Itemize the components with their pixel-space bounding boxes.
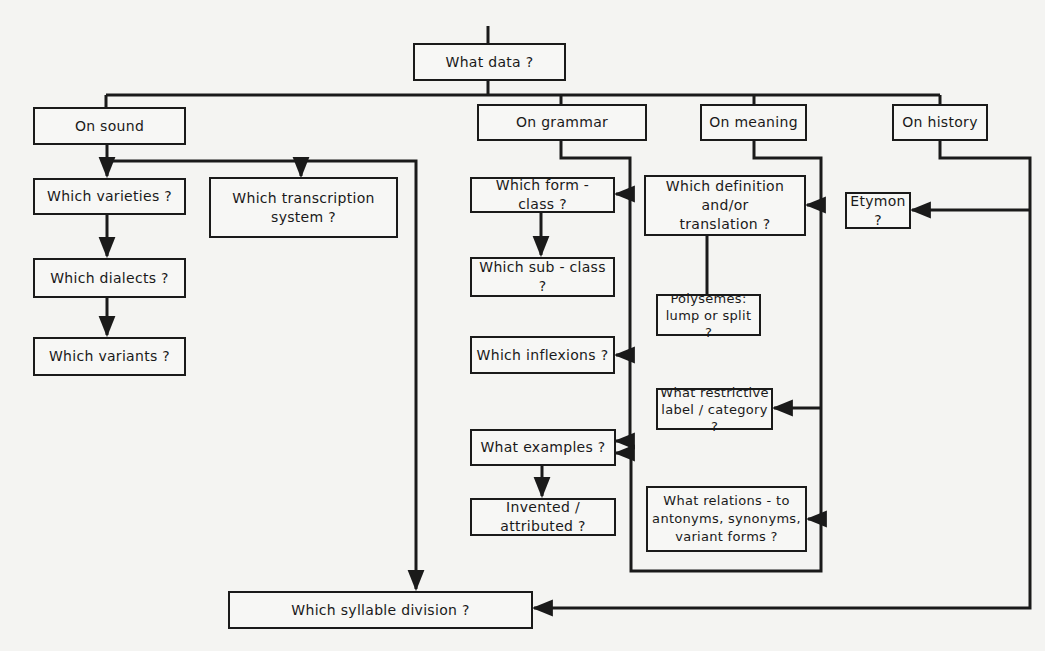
- node-syllable-division: Which syllable division ?: [228, 591, 533, 629]
- node-on-grammar: On grammar: [477, 104, 647, 141]
- node-relations: What relations - to antonyms, synonyms, …: [646, 486, 807, 552]
- node-on-history: On history: [892, 104, 988, 141]
- node-restrictive-label: What restrictive label / category ?: [656, 388, 773, 430]
- node-definition-translation: Which definition and/or translation ?: [644, 175, 806, 236]
- node-what-data: What data ?: [413, 43, 566, 81]
- connector-lines: [0, 0, 1045, 651]
- node-sub-class: Which sub - class ?: [470, 257, 615, 297]
- node-transcription-system: Which transcription system ?: [209, 177, 398, 238]
- node-polysemes: Polysemes: lump or split ?: [656, 294, 761, 336]
- node-which-variants: Which variants ?: [33, 337, 186, 376]
- node-which-dialects: Which dialects ?: [33, 258, 186, 298]
- node-inflexions: Which inflexions ?: [470, 336, 615, 374]
- node-invented-attributed: Invented / attributed ?: [470, 498, 616, 536]
- node-form-class: Which form - class ?: [470, 177, 615, 213]
- node-what-examples: What examples ?: [470, 429, 616, 466]
- node-which-varieties: Which varieties ?: [33, 178, 186, 215]
- node-on-sound: On sound: [33, 107, 186, 145]
- node-on-meaning: On meaning: [700, 104, 807, 141]
- node-etymon: Etymon ?: [845, 192, 911, 229]
